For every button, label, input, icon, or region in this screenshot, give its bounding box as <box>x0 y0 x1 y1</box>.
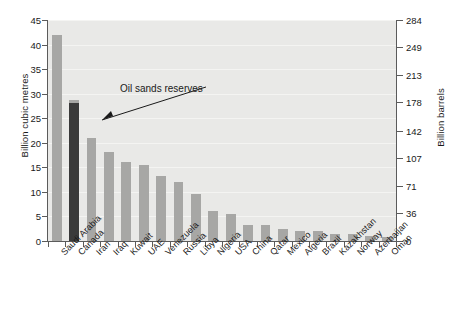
y-tick-label-left: 15 <box>30 162 41 173</box>
y-tick-label-left: 25 <box>30 113 41 124</box>
y-tick-right <box>397 131 403 132</box>
x-tick <box>48 242 49 247</box>
y-tick-label-left: 10 <box>30 186 41 197</box>
bar-cap-conventional <box>69 100 79 103</box>
y-tick-right <box>397 75 403 76</box>
y-axis-left-line <box>47 20 48 242</box>
y-tick-left <box>42 167 48 168</box>
y-tick-left <box>42 216 48 217</box>
y-tick-label-right: 36 <box>406 207 417 218</box>
bar-iraq <box>104 152 114 241</box>
gridline <box>48 192 396 193</box>
gridline <box>48 69 396 70</box>
y-tick-right <box>397 158 403 159</box>
y-tick-left <box>42 143 48 144</box>
y-tick-right <box>397 102 403 103</box>
y-tick-left <box>42 192 48 193</box>
y-tick-label-right: 142 <box>406 125 422 136</box>
y-tick-right <box>397 186 403 187</box>
bar-canada <box>69 103 79 241</box>
y-tick-label-left: 0 <box>36 236 41 247</box>
y-tick-right <box>397 213 403 214</box>
bar-kuwait <box>121 162 131 241</box>
bar-saudi-arabia <box>52 35 62 241</box>
y-tick-label-left: 20 <box>30 137 41 148</box>
annotation-label-oil-sands: Oil sands reserves <box>120 83 203 94</box>
y-tick-right <box>397 47 403 48</box>
y-tick-label-left: 40 <box>30 39 41 50</box>
y-tick-label-left: 35 <box>30 64 41 75</box>
bar-chart-figure: Billion cubic metres Billion barrels 051… <box>0 0 465 312</box>
y-axis-title-left: Billion cubic metres <box>19 46 30 186</box>
y-tick-label-right: 71 <box>406 180 417 191</box>
y-tick-label-right: 178 <box>406 97 422 108</box>
y-tick-label-left: 30 <box>30 88 41 99</box>
gridline <box>48 143 396 144</box>
y-tick-label-left: 5 <box>36 211 41 222</box>
gridline <box>48 94 396 95</box>
plot-area <box>48 20 396 241</box>
y-tick-left <box>42 94 48 95</box>
y-tick-label-right: 249 <box>406 42 422 53</box>
bar-venezuela <box>156 176 166 241</box>
y-tick-right <box>397 20 403 21</box>
gridline <box>48 167 396 168</box>
gridline <box>48 45 396 46</box>
y-tick-left <box>42 20 48 21</box>
y-tick-left <box>42 69 48 70</box>
gridline <box>48 118 396 119</box>
y-tick-label-right: 107 <box>406 152 422 163</box>
y-tick-label-left: 45 <box>30 15 41 26</box>
y-tick-label-right: 213 <box>406 70 422 81</box>
y-tick-left <box>42 118 48 119</box>
y-tick-left <box>42 45 48 46</box>
y-axis-title-right: Billion barrels <box>435 48 446 188</box>
y-tick-label-right: 284 <box>406 15 422 26</box>
gridline <box>48 20 396 21</box>
